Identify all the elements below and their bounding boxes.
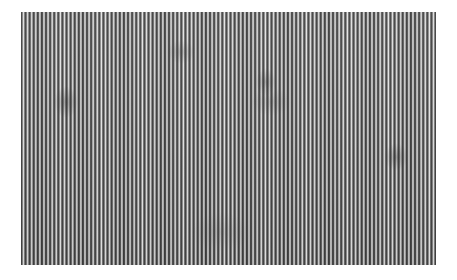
grating-texture	[21, 12, 436, 265]
